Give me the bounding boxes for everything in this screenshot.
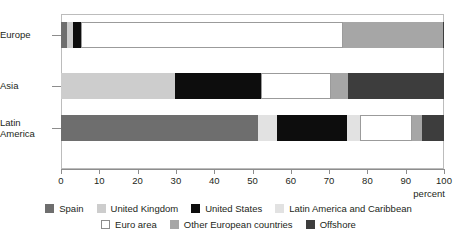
x-tick [406,169,407,174]
x-tick-label: 80 [352,175,382,186]
category-label-line: Asia [0,80,50,91]
legend-item-other-european-countries[interactable]: Other European countries [170,219,293,230]
legend-swatch-icon [101,220,110,229]
legend-label: Other European countries [184,219,293,230]
x-tick [138,169,139,174]
legend-swatch-icon [275,204,284,213]
legend-item-united-states[interactable]: United States [191,203,262,214]
legend-label: Latin America and Caribbean [289,203,412,214]
legend-row-2: Euro areaOther European countriesOffshor… [0,219,457,230]
bar-segment-euro-area [81,22,343,48]
x-tick [444,169,445,174]
x-tick [253,169,254,174]
category-tick [52,35,61,36]
x-tick-label: 60 [276,175,306,186]
bar-segment-united-states [73,22,81,48]
x-tick-label: 90 [391,175,421,186]
category-label-latin-america: LatinAmerica [0,117,50,139]
legend-item-euro-area[interactable]: Euro area [101,219,157,230]
bar-segment-euro-area [360,115,412,141]
x-tick-label: 20 [123,175,153,186]
bar-segment-latin-america-and-caribbean [258,115,277,141]
x-axis-unit-label: percent [413,188,445,199]
legend-swatch-icon [170,220,179,229]
x-tick-label: 10 [84,175,114,186]
legend-swatch-icon [191,204,200,213]
legend-swatch-icon [306,220,315,229]
x-tick-label: 40 [199,175,229,186]
bar-segment-offshore [348,73,444,99]
category-tick [52,86,61,87]
bar-europe [61,22,444,48]
bar-segment-united-states [175,73,261,99]
category-label-line: Europe [0,29,50,40]
bar-segment-offshore [422,115,444,141]
x-tick-label: 50 [238,175,268,186]
bar-segment-latin-america-and-caribbean [347,115,360,141]
legend-label: Spain [59,203,83,214]
legend-item-spain[interactable]: Spain [45,203,83,214]
legend-label: United Kingdom [111,203,179,214]
x-tick [99,169,100,174]
legend-item-united-kingdom[interactable]: United Kingdom [97,203,179,214]
x-tick [291,169,292,174]
category-label-asia: Asia [0,80,50,91]
x-tick [329,169,330,174]
bar-segment-united-kingdom [61,73,175,99]
legend-row-1: SpainUnited KingdomUnited StatesLatin Am… [0,203,457,214]
x-tick [61,169,62,174]
x-tick [367,169,368,174]
x-tick-label: 100 [429,175,457,186]
legend-label: Euro area [115,219,157,230]
x-tick [214,169,215,174]
category-label-europe: Europe [0,29,50,40]
legend-swatch-icon [97,204,106,213]
x-tick [176,169,177,174]
category-label-line: Latin [0,117,50,128]
x-tick-label: 70 [314,175,344,186]
bar-segment-other-european-countries [343,22,443,48]
legend-item-latin-america-and-caribbean[interactable]: Latin America and Caribbean [275,203,412,214]
legend-label: United States [205,203,262,214]
x-tick-label: 0 [46,175,76,186]
category-tick [52,128,61,129]
bar-segment-offshore [443,22,444,48]
legend-item-offshore[interactable]: Offshore [306,219,356,230]
bar-segment-united-states [277,115,347,141]
legend-label: Offshore [320,219,356,230]
x-tick-label: 30 [161,175,191,186]
legend-swatch-icon [45,204,54,213]
stacked-bar-chart: EuropeAsiaLatinAmerica 01020304050607080… [0,0,457,245]
bar-segment-euro-area [261,73,331,99]
bar-latin-america [61,115,444,141]
category-label-line: America [0,128,50,139]
bar-segment-other-european-countries [331,73,348,99]
bar-asia [61,73,444,99]
bar-segment-other-european-countries [412,115,422,141]
bar-segment-spain [61,115,258,141]
